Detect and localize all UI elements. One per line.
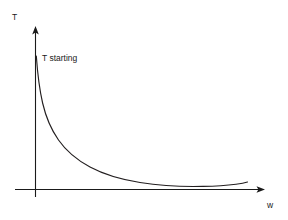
x-axis	[15, 186, 265, 193]
t-starting-annotation: T starting	[42, 53, 78, 63]
x-axis-label: w	[266, 200, 274, 210]
decay-curve	[36, 56, 247, 187]
y-axis	[32, 26, 39, 197]
figure-root: T w T starting	[0, 0, 288, 220]
y-axis-label: T	[12, 12, 17, 22]
plot-canvas: T w T starting	[0, 0, 288, 220]
